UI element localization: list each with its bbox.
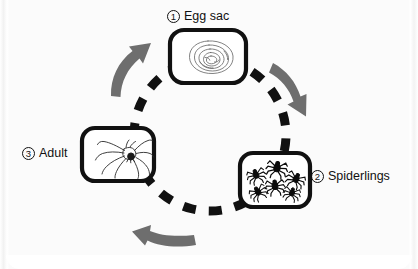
stage-box-adult [82, 128, 154, 181]
stage-box-egg-sac [170, 30, 246, 83]
stage-label-adult: 3 Adult [22, 147, 68, 160]
stage-label-text-adult: Adult [39, 147, 68, 160]
stage-number-2: 2 [311, 170, 324, 183]
stage-box-spiderlings [240, 153, 310, 207]
stage-number-3: 3 [22, 147, 35, 160]
life-cycle-diagram [0, 0, 418, 269]
stage-label-text-spiderlings: Spiderlings [328, 170, 390, 183]
stage-label-egg-sac: 1 Egg sac [167, 10, 229, 23]
spider-life-cycle-figure: 1 Egg sac 2 Spiderlings 3 Adult [0, 0, 418, 269]
stage-number-1: 1 [167, 10, 180, 23]
arrow-spiderlings-to-adult [132, 225, 196, 247]
stage-label-spiderlings: 2 Spiderlings [311, 170, 390, 183]
adult-box-frame [82, 128, 154, 181]
stage-label-text-egg-sac: Egg sac [184, 10, 229, 23]
arrow-adult-to-egg [111, 43, 151, 97]
